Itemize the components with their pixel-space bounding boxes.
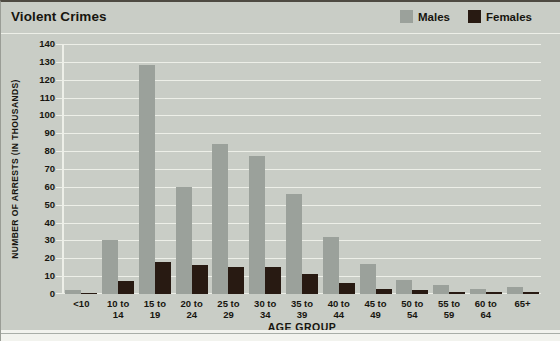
- bar-group-40-to-44: [320, 44, 357, 294]
- y-tick-label: 110: [21, 92, 55, 104]
- bar-males: [470, 289, 486, 294]
- bar-males: [212, 144, 228, 294]
- females-swatch-icon: [468, 10, 481, 23]
- y-tick: [56, 258, 63, 259]
- y-tick-label: 140: [21, 38, 55, 50]
- x-tick-label: 60 to64: [467, 298, 504, 320]
- bar-group-35-to-39: [284, 44, 321, 294]
- y-axis-title: NUMBER OF ARRESTS (IN THOUSANDS): [10, 79, 20, 259]
- bar-group-65+: [504, 44, 541, 294]
- bar-males: [102, 240, 118, 294]
- bar-males: [176, 187, 192, 294]
- y-tick-label: 10: [21, 270, 55, 282]
- x-axis-tick-labels: <1010 to1415 to1920 to2425 to2930 to3435…: [63, 298, 541, 320]
- bar-males: [139, 65, 155, 294]
- y-tick-label: 40: [21, 217, 55, 229]
- y-tick-label: 20: [21, 252, 55, 264]
- y-tick-label: 90: [21, 127, 55, 139]
- bar-females: [523, 292, 539, 294]
- bar-group-45-to-49: [357, 44, 394, 294]
- legend-label-males: Males: [418, 11, 450, 23]
- legend-label-females: Females: [486, 11, 532, 23]
- bar-group-60-to-64: [467, 44, 504, 294]
- bar-females: [412, 290, 428, 294]
- x-tick-label: 15 to19: [137, 298, 174, 320]
- bar-group-<10: [63, 44, 100, 294]
- bar-males: [433, 285, 449, 294]
- plot-area: 0102030405060708090100110120130140: [63, 44, 541, 294]
- legend: Males Females: [400, 10, 532, 23]
- y-tick: [56, 187, 63, 188]
- y-tick-label: 50: [21, 199, 55, 211]
- y-tick-label: 0: [21, 288, 55, 300]
- y-tick: [56, 223, 63, 224]
- bar-males: [65, 290, 81, 294]
- x-tick-label: 55 to59: [431, 298, 468, 320]
- violent-crimes-chart: Violent Crimes Males Females NUMBER OF A…: [0, 0, 560, 341]
- bar-females: [486, 292, 502, 294]
- bar-males: [360, 264, 376, 294]
- header-divider: [1, 33, 560, 34]
- bar-group-25-to-29: [210, 44, 247, 294]
- bar-males: [286, 194, 302, 294]
- bar-females: [339, 283, 355, 294]
- y-tick: [56, 98, 63, 99]
- y-tick: [56, 115, 63, 116]
- y-tick: [56, 44, 63, 45]
- y-tick-label: 80: [21, 145, 55, 157]
- bar-males: [249, 156, 265, 294]
- males-swatch-icon: [400, 10, 413, 23]
- bar-males: [396, 280, 412, 294]
- x-tick-label: 35 to39: [284, 298, 321, 320]
- bar-females: [302, 274, 318, 294]
- y-tick: [56, 169, 63, 170]
- y-tick: [56, 62, 63, 63]
- y-tick-label: 70: [21, 163, 55, 175]
- bar-group-15-to-19: [137, 44, 174, 294]
- y-tick-label: 60: [21, 181, 55, 193]
- y-tick-label: 100: [21, 109, 55, 121]
- y-tick-label: 120: [21, 74, 55, 86]
- x-tick-label: 25 to29: [210, 298, 247, 320]
- y-tick-label: 130: [21, 56, 55, 68]
- x-tick-label: 50 to54: [394, 298, 431, 320]
- bar-group-50-to-54: [394, 44, 431, 294]
- x-tick-label: <10: [63, 298, 100, 320]
- y-tick: [56, 80, 63, 81]
- bar-females: [449, 292, 465, 294]
- x-tick-label: 10 to14: [100, 298, 137, 320]
- bar-males: [323, 237, 339, 294]
- y-tick-label: 30: [21, 234, 55, 246]
- bar-females: [265, 267, 281, 294]
- y-tick: [56, 205, 63, 206]
- bar-group-20-to-24: [173, 44, 210, 294]
- bar-females: [228, 267, 244, 294]
- bar-females: [376, 289, 392, 294]
- y-tick: [56, 276, 63, 277]
- y-tick: [56, 240, 63, 241]
- y-tick: [56, 151, 63, 152]
- bar-females: [192, 265, 208, 294]
- bottom-rule: [1, 333, 560, 334]
- bar-females: [81, 293, 97, 294]
- x-tick-label: 40 to44: [320, 298, 357, 320]
- legend-item-males: Males: [400, 10, 450, 23]
- y-tick: [56, 133, 63, 134]
- y-tick: [56, 293, 63, 294]
- legend-item-females: Females: [468, 10, 532, 23]
- bar-females: [118, 281, 134, 294]
- bar-females: [155, 262, 171, 294]
- x-tick-label: 65+: [504, 298, 541, 320]
- bottom-stripe: [0, 330, 560, 341]
- x-tick-label: 30 to34: [247, 298, 284, 320]
- bar-group-10-to-14: [100, 44, 137, 294]
- x-tick-label: 45 to49: [357, 298, 394, 320]
- chart-title: Violent Crimes: [11, 9, 107, 24]
- bar-males: [507, 287, 523, 294]
- bar-group-55-to-59: [431, 44, 468, 294]
- x-tick-label: 20 to24: [173, 298, 210, 320]
- bar-group-30-to-34: [247, 44, 284, 294]
